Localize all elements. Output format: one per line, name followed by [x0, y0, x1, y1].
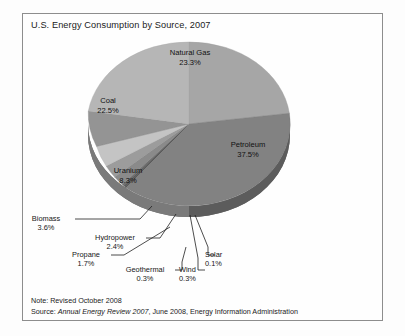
leader-line-solar — [195, 215, 215, 255]
chart-source-title: Annual Energy Review 2007 — [58, 307, 149, 316]
callout-label-hydropower-name: Hydropower — [95, 233, 135, 242]
callout-label-hydropower: Hydropower 2.4% — [84, 233, 146, 252]
callout-label-geothermal-pct: 0.3% — [114, 274, 176, 283]
slice-label-petroleum-pct: 37.5% — [237, 150, 259, 159]
callout-label-propane-name: Propane — [72, 250, 100, 259]
slice-label-coal: Coal 22.5% — [73, 96, 143, 115]
slice-label-uranium-name: Uranium — [114, 166, 143, 175]
callout-label-solar-name: Solar — [205, 250, 222, 259]
chart-source-prefix: Source: — [31, 307, 58, 316]
leader-line-biomass — [75, 206, 152, 219]
slice-label-uranium-pct: 8.3% — [119, 176, 136, 185]
chart-note: Note: Revised October 2008 — [31, 296, 122, 305]
chart-source: Source: Annual Energy Review 2007, June … — [31, 307, 298, 316]
slice-label-petroleum: Petroleum 37.5% — [208, 140, 288, 159]
callout-label-wind-pct: 0.3% — [179, 274, 219, 283]
figure-container: U.S. Energy Consumption by Source, 2007 — [0, 0, 405, 336]
slice-label-natural-gas-name: Natural Gas — [170, 48, 211, 57]
slice-label-natural-gas: Natural Gas 23.3% — [145, 48, 235, 67]
callout-label-geothermal-name: Geothermal — [126, 265, 165, 274]
callout-label-wind-name: Wind — [179, 265, 196, 274]
callout-label-biomass-pct: 3.6% — [17, 223, 75, 232]
leader-line-hydropower — [146, 214, 176, 238]
callout-label-wind: Wind 0.3% — [179, 265, 219, 284]
slice-label-uranium: Uranium 8.3% — [92, 166, 164, 185]
callout-label-propane: Propane 1.7% — [61, 250, 111, 269]
callout-label-propane-pct: 1.7% — [61, 259, 111, 268]
chart-source-suffix: , June 2008, Energy Information Administ… — [148, 307, 297, 316]
callout-label-biomass: Biomass 3.6% — [17, 214, 75, 233]
callout-label-geothermal: Geothermal 0.3% — [114, 265, 176, 284]
slice-label-coal-pct: 22.5% — [97, 106, 119, 115]
slice-label-natural-gas-pct: 23.3% — [179, 58, 201, 67]
slice-label-petroleum-name: Petroleum — [231, 140, 266, 149]
leader-line-wind — [190, 215, 205, 270]
callout-label-biomass-name: Biomass — [32, 214, 60, 223]
slice-label-coal-name: Coal — [100, 96, 116, 105]
